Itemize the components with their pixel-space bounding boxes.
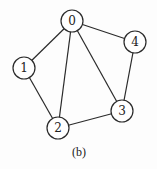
node-label: 0 <box>68 14 76 28</box>
graph-diagram: 01234 (b) <box>0 0 157 169</box>
node-1: 1 <box>13 57 35 79</box>
node-label: 4 <box>131 35 139 49</box>
node-label: 3 <box>118 104 126 118</box>
graph-figure: 01234 (b) <box>0 0 157 169</box>
edge-0-3 <box>72 21 122 111</box>
node-0: 0 <box>61 10 83 32</box>
node-label: 1 <box>20 61 28 75</box>
node-label: 2 <box>54 121 62 135</box>
node-3: 3 <box>111 100 133 122</box>
figure-caption: (b) <box>72 145 86 159</box>
node-2: 2 <box>47 117 69 139</box>
edge-0-2 <box>58 21 72 128</box>
node-4: 4 <box>124 31 146 53</box>
nodes-group: 01234 <box>13 10 146 139</box>
